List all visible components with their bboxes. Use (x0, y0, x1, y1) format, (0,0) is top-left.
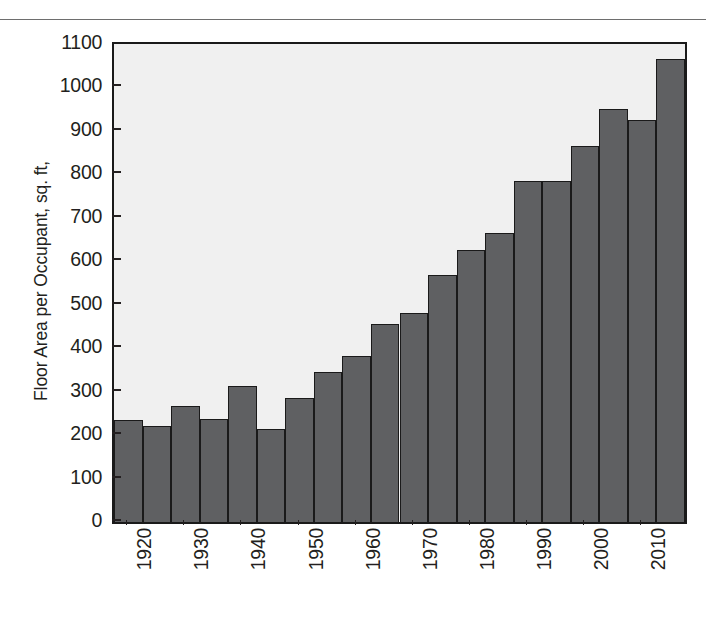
bar (514, 181, 543, 522)
horizontal-rule-divider (0, 19, 706, 20)
bar (428, 275, 457, 522)
y-axis-tick-label: 300 (70, 378, 102, 401)
y-axis-tick-mark (112, 389, 121, 391)
y-axis-tick-mark (112, 432, 121, 434)
bar (599, 109, 628, 522)
x-axis-tick-label: 1960 (362, 528, 385, 570)
x-axis-tick-label: 1940 (247, 528, 270, 570)
y-axis-tick-mark (112, 519, 121, 521)
bar (656, 59, 685, 522)
y-axis-tick-label: 900 (70, 117, 102, 140)
y-axis-tick-mark (112, 171, 121, 173)
x-axis-tick-mark (526, 520, 527, 525)
bar (257, 429, 286, 522)
y-axis-tick-label: 700 (70, 204, 102, 227)
bar (200, 419, 229, 522)
x-axis-tick-label: 1980 (476, 528, 499, 570)
y-axis-tick-label: 100 (70, 465, 102, 488)
x-axis-tick-mark (126, 520, 127, 525)
y-axis-tick-label: 0 (91, 509, 102, 532)
bar (485, 233, 514, 522)
bar (114, 420, 143, 522)
y-axis-tick-label: 500 (70, 291, 102, 314)
y-axis-tick-mark (112, 84, 121, 86)
y-axis-tick-label: 600 (70, 248, 102, 271)
y-axis-tick-mark (112, 128, 121, 130)
y-axis-tick-label: 1000 (60, 74, 102, 97)
y-axis-tick-mark (112, 302, 121, 304)
y-axis-tick-mark (112, 215, 121, 217)
y-axis-tick-label-group: 010020030040050060070080090010001100 (36, 42, 102, 520)
x-axis-tick-label: 2000 (590, 528, 613, 570)
y-axis-tick-label: 400 (70, 335, 102, 358)
y-axis-tick-label: 1100 (61, 31, 102, 54)
bar (400, 313, 429, 522)
bar (371, 324, 400, 522)
bar (342, 356, 371, 522)
x-axis-tick-label: 1920 (133, 528, 156, 570)
x-axis-tick-label: 1950 (305, 528, 328, 570)
x-axis-tick-mark (412, 520, 413, 525)
plot-area-frame (112, 42, 687, 524)
y-axis-tick-label: 200 (70, 422, 102, 445)
bar (228, 386, 257, 522)
bars-container (114, 44, 685, 522)
x-axis-tick-mark (183, 520, 184, 525)
y-axis-tick-mark (112, 476, 121, 478)
x-axis-tick-mark (640, 520, 641, 525)
bar (571, 146, 600, 522)
x-axis-tick-mark (469, 520, 470, 525)
y-axis-tick-label: 800 (70, 161, 102, 184)
bar-chart-figure: Floor Area per Occupant, sq. ft, 0100200… (0, 0, 710, 619)
bar (171, 406, 200, 522)
x-axis-tick-mark (240, 520, 241, 525)
x-axis-tick-label: 1970 (419, 528, 442, 570)
bar (314, 372, 343, 522)
bar (457, 250, 486, 522)
y-axis-tick-mark (112, 258, 121, 260)
x-axis-tick-label: 2010 (647, 528, 670, 570)
x-axis-tick-label: 1930 (190, 528, 213, 570)
x-axis-tick-label-group: 1920193019401950196019701980199020002010 (112, 526, 683, 616)
bar (285, 398, 314, 522)
y-axis-tick-mark (112, 345, 121, 347)
x-axis-tick-label: 1990 (533, 528, 556, 570)
x-axis-tick-mark (355, 520, 356, 525)
bar (628, 120, 657, 522)
x-axis-tick-mark (583, 520, 584, 525)
bar (542, 181, 571, 522)
bar (143, 426, 172, 522)
x-axis-tick-mark (298, 520, 299, 525)
